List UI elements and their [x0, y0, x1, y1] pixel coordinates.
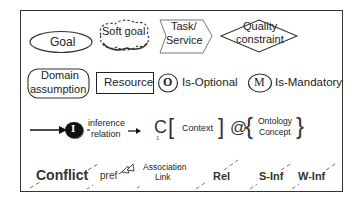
goal-label: Goal — [50, 35, 75, 49]
quality-label-line1: Quality — [243, 20, 277, 32]
domain-label-line1: Domain — [41, 69, 79, 81]
inference-label-line1: inference — [88, 118, 125, 128]
optional-label: Is-Optional — [182, 76, 238, 88]
w-inf-label: W-Inf — [298, 170, 325, 182]
ontology-open-brace: { — [245, 112, 253, 140]
context-close-bracket: ] — [218, 114, 224, 140]
conflict-label: Conflict — [36, 167, 88, 183]
ontology-close-brace: } — [296, 112, 304, 140]
inference-arrow-icon — [28, 120, 88, 140]
task-label-line2: Service — [166, 34, 203, 46]
context-subscript: 1 — [156, 135, 159, 141]
mandatory-label: Is-Mandatory — [275, 76, 342, 88]
inference-out-arrow-icon — [128, 126, 144, 136]
association-label-line2: Link — [155, 172, 171, 182]
optional-glyph: O — [163, 75, 172, 90]
inference-label-line2: relation — [91, 129, 121, 139]
context-label: Context — [182, 123, 213, 133]
quality-label-line2: constraint — [236, 33, 284, 45]
task-label-line1: Task/ — [171, 20, 197, 32]
mandatory-glyph: M — [254, 75, 265, 90]
s-inf-label: S-Inf — [259, 170, 283, 182]
resource-label: Resource — [104, 76, 153, 88]
context-open-bracket: [ — [168, 114, 174, 140]
ontology-label-line2: Concept — [259, 127, 291, 137]
soft-goal-label: Soft goal — [102, 25, 145, 37]
rel-label: Rel — [213, 170, 230, 182]
inference-glyph: I — [71, 122, 75, 134]
association-label-line1: Association — [143, 162, 186, 172]
domain-label-line2: assumption — [30, 83, 86, 95]
ontology-label-line1: Ontology — [258, 116, 292, 126]
pref-label: pref — [100, 170, 117, 181]
